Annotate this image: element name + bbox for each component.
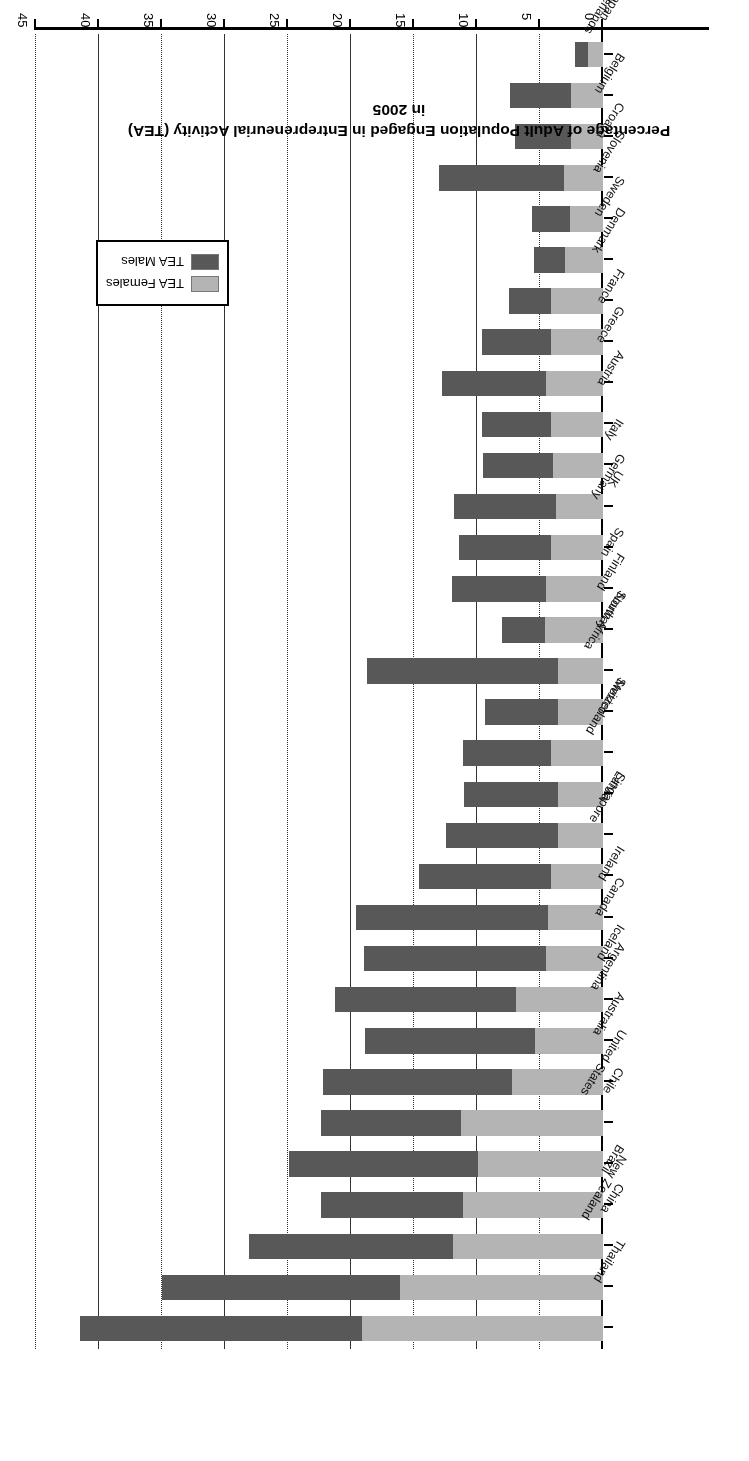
category-tick (604, 422, 613, 424)
category-tick (604, 340, 613, 342)
tick-label-25: 25 (267, 13, 282, 27)
category-tick (604, 1039, 613, 1041)
bar-segment-males (502, 617, 545, 642)
tick-label-35: 35 (141, 13, 156, 27)
bar-segment-males (534, 247, 566, 272)
category-tick (604, 505, 613, 507)
bar-segment-males (249, 1234, 453, 1259)
tick-label-15: 15 (393, 13, 408, 27)
category-tick (604, 1285, 613, 1287)
bar-segment-males (289, 1151, 478, 1176)
bar-segment-males (335, 987, 516, 1012)
legend-label-tea-females: TEA Females (106, 277, 184, 292)
category-tick (604, 792, 613, 794)
bar-segment-males (485, 699, 558, 724)
legend-swatch-males-icon (191, 254, 219, 270)
category-label-italy: Italy (602, 417, 626, 444)
category-tick (604, 1162, 613, 1164)
value-axis-line (34, 27, 709, 30)
gridline-45 (35, 34, 36, 1349)
bar-segment-females (453, 1234, 603, 1259)
category-tick (604, 258, 613, 260)
bar-segment-females (546, 576, 603, 601)
bar-segment-females (400, 1275, 603, 1300)
category-tick (604, 299, 613, 301)
tick-25 (286, 19, 288, 30)
bar-segment-males (464, 782, 557, 807)
bar-segment-males (575, 42, 588, 67)
bar-segment-males (323, 1069, 512, 1094)
category-tick (604, 94, 613, 96)
tick-15 (412, 19, 414, 30)
bar-segment-males (365, 1028, 535, 1053)
chart-legend: TEA Females TEA Males (96, 240, 229, 306)
bar-segment-males (459, 535, 551, 560)
category-tick (604, 381, 613, 383)
gridline-40 (98, 34, 99, 1349)
bar-segment-females (551, 288, 603, 313)
bar-segment-females (551, 329, 603, 354)
bar-segment-females (551, 535, 603, 560)
bar-segment-females (551, 740, 603, 765)
tick-30 (223, 19, 225, 30)
category-tick (604, 1326, 613, 1328)
y-axis-title: Percentage of Adult Population Engaged i… (119, 99, 679, 141)
rotated-figure-wrapper: 051015202530354045 ThailandNew ZealandCh… (0, 0, 749, 1461)
category-tick (604, 1080, 613, 1082)
bar-segment-females (478, 1151, 603, 1176)
bar-segment-males (532, 206, 570, 231)
legend-label-tea-males: TEA Males (121, 255, 184, 270)
tick-label-5: 5 (519, 13, 534, 20)
legend-item-tea-females: TEA Females (106, 276, 219, 292)
tick-label-40: 40 (78, 13, 93, 27)
bar-segment-males (446, 823, 558, 848)
category-tick (604, 998, 613, 1000)
tick-label-45: 45 (15, 13, 30, 27)
bar-segment-males (321, 1192, 463, 1217)
bar-segment-males (442, 371, 547, 396)
tick-label-10: 10 (456, 13, 471, 27)
bar-segment-males (483, 453, 552, 478)
bar-segment-females (516, 987, 603, 1012)
category-tick (604, 710, 613, 712)
bar-segment-females (362, 1316, 603, 1341)
bar-segment-males (439, 165, 564, 190)
category-tick (604, 217, 613, 219)
bar-segment-females (588, 42, 603, 67)
bar-segment-males (80, 1316, 362, 1341)
category-tick (604, 751, 613, 753)
gridline-35 (161, 34, 162, 1349)
gridline-25 (287, 34, 288, 1349)
tick-5 (538, 19, 540, 30)
category-tick (604, 916, 613, 918)
bar-segment-females (551, 412, 603, 437)
category-tick (604, 833, 613, 835)
stacked-bar-chart: 051015202530354045 ThailandNew ZealandCh… (0, 0, 749, 1461)
chart-page: 051015202530354045 ThailandNew ZealandCh… (0, 0, 749, 1461)
tick-35 (160, 19, 162, 30)
category-tick (604, 463, 613, 465)
tick-10 (475, 19, 477, 30)
legend-swatch-females-icon (191, 276, 219, 292)
bar-segment-females (558, 823, 603, 848)
tick-40 (97, 19, 99, 30)
category-tick (604, 546, 613, 548)
bar-segment-males (452, 576, 547, 601)
category-tick (604, 1244, 613, 1246)
bar-segment-males (419, 864, 551, 889)
tick-label-30: 30 (204, 13, 219, 27)
bar-segment-males (509, 288, 552, 313)
bar-segment-females (546, 946, 603, 971)
bar-segment-males (367, 658, 557, 683)
bar-segment-females (546, 371, 603, 396)
category-tick (604, 1203, 613, 1205)
bar-segment-males (463, 740, 551, 765)
gridline-30 (224, 34, 225, 1349)
legend-item-tea-males: TEA Males (106, 254, 219, 270)
category-tick (604, 53, 613, 55)
tick-label-20: 20 (330, 13, 345, 27)
category-tick (604, 176, 613, 178)
bar-segment-males (162, 1275, 400, 1300)
tick-20 (349, 19, 351, 30)
category-tick (604, 874, 613, 876)
